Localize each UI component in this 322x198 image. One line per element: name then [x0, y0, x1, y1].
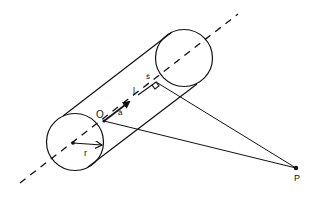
axis-unit-vector-label: â — [118, 108, 123, 117]
cylinder-diagram: O â l ŝ r P — [0, 0, 322, 198]
axis-unit-vector-arrow — [104, 102, 129, 121]
origin-label: O — [96, 109, 104, 120]
axis-distance-label: l — [133, 86, 135, 96]
point-p-label: P — [294, 173, 300, 183]
radius-arrow — [73, 143, 102, 145]
cylinder-side-lower — [88, 84, 197, 167]
radius-label: r — [84, 148, 87, 158]
cylinder-side-upper — [63, 32, 172, 116]
point-p-dot — [294, 166, 298, 170]
perpendicular-unit-vector-label: ŝ — [146, 72, 150, 81]
origin-to-p-line — [104, 121, 296, 168]
perpendicular-to-p — [156, 82, 296, 168]
